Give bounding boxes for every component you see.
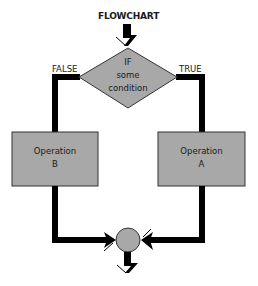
true-label: TRUE	[179, 64, 202, 74]
operation-a-line-2: A	[158, 158, 245, 171]
exit-arrow-icon	[117, 252, 138, 273]
operation-b-line-1: Operation	[12, 145, 98, 158]
operation-a-line-1: Operation	[158, 145, 245, 158]
true-branch-connector	[176, 77, 202, 132]
flowchart-diagram: FLOWCHART FALSE TRUE IF some condition O…	[0, 0, 258, 286]
false-label: FALSE	[52, 64, 77, 74]
decision-line-3: condition	[98, 82, 158, 95]
false-branch-connector	[55, 77, 80, 132]
right-merge-connector	[150, 186, 202, 240]
decision-text: IF some condition	[98, 56, 158, 95]
merge-connector-circle	[116, 228, 140, 252]
decision-line-1: IF	[98, 56, 158, 69]
flowchart-title: FLOWCHART	[98, 11, 158, 21]
decision-line-2: some	[98, 69, 158, 82]
operation-b-text: Operation B	[12, 145, 98, 171]
operation-b-line-2: B	[12, 158, 98, 171]
left-merge-connector	[55, 186, 108, 240]
flowchart-canvas	[0, 0, 258, 286]
operation-a-text: Operation A	[158, 145, 245, 171]
entry-arrow-icon	[116, 24, 137, 46]
